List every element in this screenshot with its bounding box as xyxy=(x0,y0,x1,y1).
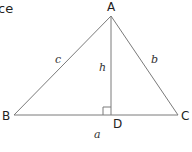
vertex-c-label: C xyxy=(181,110,189,122)
triangle-diagram: ce A B C D c b h a xyxy=(0,0,192,152)
right-angle-marker xyxy=(103,107,111,115)
side-b-label: b xyxy=(151,54,158,65)
vertex-a-label: A xyxy=(107,1,115,13)
side-b xyxy=(111,16,178,115)
vertex-b-label: B xyxy=(2,110,10,122)
cropped-text: ce xyxy=(0,2,13,15)
side-c-label: c xyxy=(55,54,61,65)
side-c xyxy=(14,16,111,115)
vertex-d-label: D xyxy=(113,118,122,130)
side-a-label: a xyxy=(94,129,101,140)
altitude-h-label: h xyxy=(99,62,106,73)
